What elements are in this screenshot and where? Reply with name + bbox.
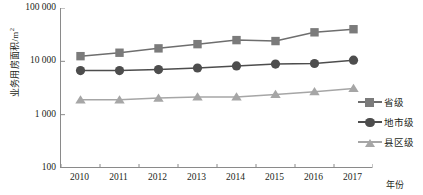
data-point-marker [76,66,85,75]
legend-item-1[interactable]: 省级 [358,92,423,112]
x-axis-tick-label: 2010 [60,172,100,182]
data-point-marker [115,66,124,75]
y-axis-tick-label: 10 000 [2,56,56,65]
legend-label: 县区级 [384,135,414,149]
data-point-marker [349,25,357,33]
data-series-3 [75,84,358,104]
data-point-marker [76,52,84,60]
x-axis-tick-labels: 20102011201220132014201520162017 [60,172,372,188]
data-point-marker [271,37,279,45]
data-point-marker [310,59,319,68]
legend-key [358,136,382,148]
chart-legend: 省级地市级县区级 [358,92,423,152]
x-axis-tick-label: 2015 [255,172,295,182]
legend-marker-square-icon [365,98,374,107]
data-point-marker [115,49,123,57]
legend-marker-triangle-icon [365,139,375,147]
x-axis-tick-label: 2013 [177,172,217,182]
series-canvas [61,8,373,168]
data-point-marker [154,65,163,74]
x-axis-tick-label: 2017 [333,172,373,182]
legend-key [358,116,382,128]
legend-label: 地市级 [384,115,414,129]
legend-key [358,96,382,108]
x-axis-tick-label: 2016 [294,172,334,182]
legend-item-3[interactable]: 县区级 [358,132,423,152]
x-axis-tick-label: 2014 [216,172,256,182]
legend-label: 省级 [384,95,404,109]
data-point-marker [349,56,358,65]
legend-item-2[interactable]: 地市级 [358,112,423,132]
data-point-marker [271,59,280,68]
data-point-marker [232,61,241,70]
chart-container: 业务用房面积/m2 100 00010 0001 000100 20102011… [0,0,423,195]
x-axis-tick-label: 2011 [99,172,139,182]
y-axis-tick-labels: 100 00010 0001 000100 [0,0,56,195]
data-point-marker [154,44,162,52]
y-axis-tick-label: 100 000 [2,3,56,12]
data-series-1 [76,25,357,60]
x-axis-tick-label: 2012 [138,172,178,182]
data-series-2 [76,56,358,76]
data-point-marker [193,63,202,72]
y-axis-tick-label: 100 [2,163,56,172]
data-point-marker [232,36,240,44]
y-axis-tick-label: 1 000 [2,110,56,119]
x-axis-title: 年份 [386,178,404,191]
legend-marker-circle-icon [365,118,375,128]
data-point-marker [348,84,358,92]
data-point-marker [310,28,318,36]
data-point-marker [193,40,201,48]
plot-area [60,8,372,168]
